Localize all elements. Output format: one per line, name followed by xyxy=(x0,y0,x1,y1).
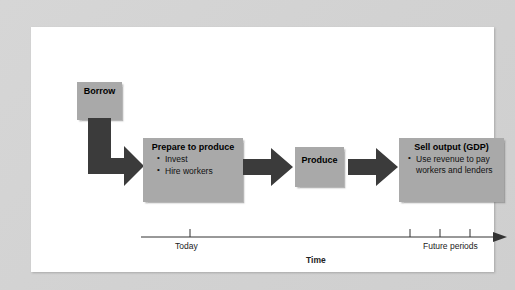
figure-panel: Borrow Prepare to produce Invest Hire wo… xyxy=(31,27,494,272)
node-bullet-item: Use revenue to pay workers and lenders xyxy=(408,154,500,174)
timeline-axis-title: Time xyxy=(306,255,326,265)
arrow-borrow-to-prepare xyxy=(86,118,146,190)
node-box-prepare: Prepare to produce Invest Hire workers xyxy=(143,138,243,202)
node-title-prepare: Prepare to produce xyxy=(143,138,243,152)
node-box-borrow: Borrow xyxy=(77,82,122,120)
timeline-label-today: Today xyxy=(175,241,198,251)
node-bullet-item: Hire workers xyxy=(157,166,239,176)
arrow-produce-to-sell xyxy=(348,148,398,186)
node-bullet-item: Invest xyxy=(157,154,239,164)
node-title-borrow: Borrow xyxy=(77,82,122,96)
figure-root: Borrow Prepare to produce Invest Hire wo… xyxy=(0,0,515,290)
arrow-prepare-to-produce xyxy=(243,148,293,186)
node-title-sell: Sell output (GDP) xyxy=(399,138,504,152)
node-box-produce: Produce xyxy=(295,147,344,187)
node-title-produce: Produce xyxy=(295,147,344,165)
timeline-label-future-periods: Future periods xyxy=(423,241,478,251)
node-bullets-prepare: Invest Hire workers xyxy=(143,154,243,175)
node-box-sell: Sell output (GDP) Use revenue to pay wor… xyxy=(399,138,504,202)
node-bullets-sell: Use revenue to pay workers and lenders xyxy=(399,154,504,174)
